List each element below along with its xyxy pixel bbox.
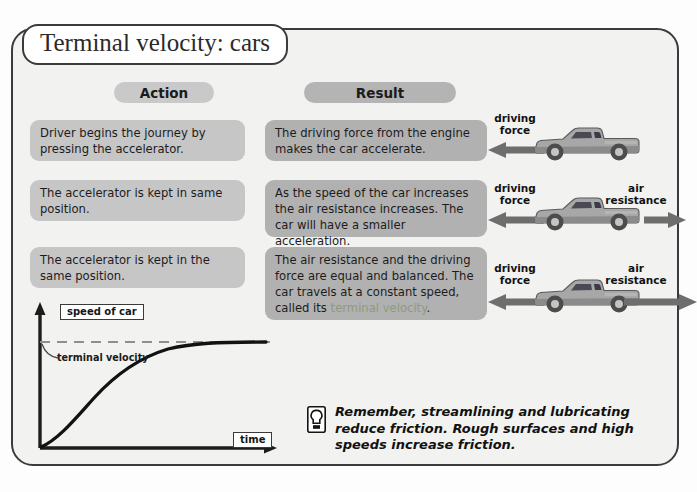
column-header-action: Action (114, 82, 214, 103)
column-header-result: Result (304, 82, 456, 103)
air-resistance-arrow-2 (644, 210, 686, 230)
pickup-truck-icon-1 (527, 122, 645, 164)
action-bubble-3: The accelerator is kept in the same posi… (30, 247, 245, 288)
graph-terminal-velocity-annotation: terminal velocity (57, 352, 149, 363)
remember-note: Remember, streamlining and lubricating r… (307, 404, 677, 454)
remember-note-text: Remember, streamlining and lubricating r… (335, 404, 677, 454)
diagram-page: Terminal velocity: cars Action Result Dr… (0, 0, 697, 492)
page-title: Terminal velocity: cars (40, 29, 270, 57)
graph-x-axis-label: time (233, 432, 272, 448)
page-title-box: Terminal velocity: cars (22, 24, 288, 65)
action-bubble-2: The accelerator is kept in same position… (30, 180, 245, 221)
air-resistance-arrow-3 (624, 292, 697, 312)
action-bubble-1: Driver begins the journey by pressing th… (30, 120, 245, 161)
result-bubble-2: As the speed of the car increases the ai… (265, 180, 487, 237)
result-bubble-3: The air resistance and the driving force… (265, 247, 487, 320)
graph-y-axis-label: speed of car (60, 304, 144, 320)
result-bubble-1: The driving force from the engine makes … (265, 120, 487, 161)
terminal-velocity-highlight: terminal velocity (331, 301, 427, 315)
result-text-suffix: . (426, 301, 430, 315)
pickup-truck-icon-2 (527, 192, 645, 234)
lightbulb-icon (307, 406, 326, 433)
